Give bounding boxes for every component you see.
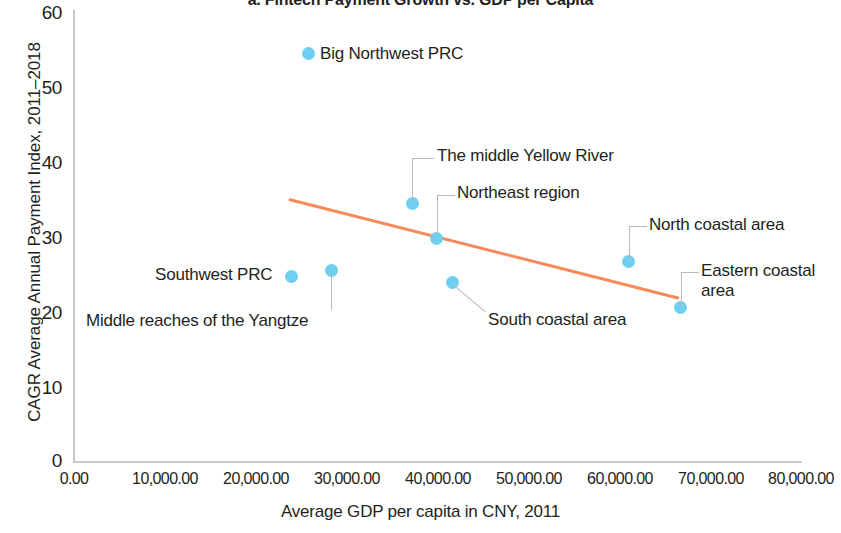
leader-line-north-coastal-hook [629,226,647,227]
annotation-southwest-prc: Southwest PRC [155,265,272,285]
leader-line-south-coastal [452,284,486,313]
chart-title: a. Fintech Payment Growth vs. GDP per Ca… [0,0,841,9]
scatter-chart-figure: a. Fintech Payment Growth vs. GDP per Ca… [0,0,841,533]
x-axis-line [73,461,802,463]
y-axis-line [73,10,75,462]
annotation-northeast-region: Northeast region [457,183,579,203]
annotation-middle-reaches-yangtze: Middle reaches of the Yangtze [86,311,308,331]
y-tick-label: 0 [8,450,62,472]
leader-line-northeast-hook [437,195,455,196]
annotation-north-coastal-area: North coastal area [649,215,784,235]
leader-line-eastern-coastal [681,272,682,307]
leader-line-yangtze [331,276,332,310]
y-tick-label: 60 [8,2,62,24]
x-axis-label: Average GDP per capita in CNY, 2011 [0,502,841,522]
data-point-big-northwest-prc[interactable] [302,47,315,60]
y-tick-label: 40 [8,152,62,174]
leader-line-northeast [437,195,438,239]
leader-line-yellow-river [412,158,413,203]
leader-line-north-coastal [629,226,630,261]
annotation-big-northwest-prc: Big Northwest PRC [320,44,463,64]
leader-line-eastern-coastal-hook [681,272,699,273]
data-point-north-coastal-area[interactable] [622,255,635,268]
y-tick-label: 20 [8,302,62,324]
data-point-middle-reaches-yangtze[interactable] [325,264,338,277]
annotation-middle-yellow-river: The middle Yellow River [437,146,614,166]
data-point-southwest-prc[interactable] [285,270,298,283]
data-point-northeast-region[interactable] [430,232,443,245]
leader-line-yellow-river-hook [412,158,434,159]
trend-line [288,198,679,300]
annotation-south-coastal-area: South coastal area [488,310,626,330]
y-tick-label: 50 [8,77,62,99]
y-tick-label: 10 [8,377,62,399]
data-point-eastern-coastal-area[interactable] [674,301,687,314]
x-tick-label: 80,000.00 [741,470,841,488]
y-tick-label: 30 [8,227,62,249]
annotation-eastern-coastal-area: Eastern coastal area [701,261,815,301]
